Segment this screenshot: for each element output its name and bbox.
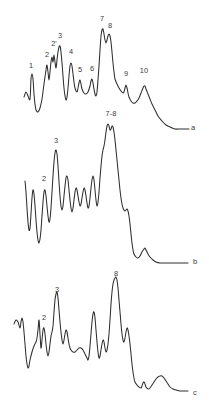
trace-line-c bbox=[14, 277, 188, 391]
peak-label-b-2: 2 bbox=[42, 174, 46, 183]
chromatogram-figure: 122'345678910a237-8b238c bbox=[0, 0, 209, 414]
peak-label-b-78: 7-8 bbox=[106, 109, 117, 118]
peak-label-b-3: 3 bbox=[54, 136, 58, 145]
peak-label-a-1: 1 bbox=[29, 61, 33, 70]
peak-label-a-8: 8 bbox=[108, 21, 112, 30]
peak-label-c-8: 8 bbox=[114, 269, 118, 278]
trace-line-b bbox=[25, 124, 188, 263]
chromatogram-plot: 122'345678910a237-8b238c bbox=[0, 0, 209, 414]
peak-label-a-6: 6 bbox=[90, 64, 94, 73]
trace-c: 238c bbox=[14, 269, 197, 397]
peak-label-c-3: 3 bbox=[55, 285, 59, 294]
peak-label-a-3: 3 bbox=[58, 31, 62, 40]
trace-tag-b: b bbox=[193, 257, 197, 266]
peak-label-a-10: 10 bbox=[140, 66, 148, 75]
peak-label-a-2: 2' bbox=[51, 39, 57, 48]
peak-label-a-5: 5 bbox=[78, 65, 82, 74]
trace-tag-a: a bbox=[191, 123, 196, 132]
trace-b: 237-8b bbox=[25, 109, 197, 266]
peak-label-a-2: 2 bbox=[45, 50, 49, 59]
trace-tag-c: c bbox=[193, 388, 197, 397]
peak-label-a-7: 7 bbox=[100, 14, 104, 23]
peak-label-c-2: 2 bbox=[42, 313, 46, 322]
peak-label-a-4: 4 bbox=[69, 47, 73, 56]
peak-label-a-9: 9 bbox=[124, 69, 128, 78]
